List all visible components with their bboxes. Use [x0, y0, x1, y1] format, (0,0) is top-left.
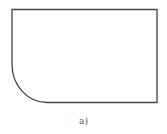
rounded-rectangle-outline [0, 0, 167, 134]
diagram-figure: a) [0, 0, 167, 134]
figure-caption: a) [0, 116, 167, 126]
